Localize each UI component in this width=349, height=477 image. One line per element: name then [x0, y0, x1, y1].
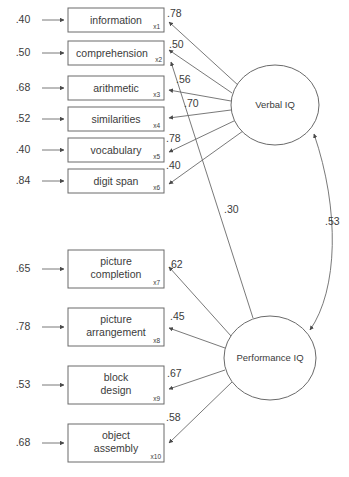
- indicator-label-x8-line1: picture: [100, 313, 132, 325]
- loading-value-x10: .58: [166, 411, 181, 423]
- indicator-boxes: information x1 comprehension x2 arithmet…: [68, 8, 164, 462]
- indicator-sub-x6: x6: [153, 184, 160, 191]
- residual-value-x7: .65: [16, 262, 31, 274]
- residual-value-x2: .50: [16, 46, 31, 58]
- indicator-label-x9-line2: design: [101, 384, 132, 396]
- indicator-label-x10-line1: object: [102, 429, 130, 441]
- loading-path-performance-x7: [169, 267, 231, 336]
- residual-value-x5: .40: [16, 143, 31, 155]
- indicator-sub-x1: x1: [153, 23, 160, 30]
- indicator-sub-x5: x5: [153, 153, 160, 160]
- residual-value-x4: .52: [16, 112, 31, 124]
- indicator-label-x6: digit span: [94, 175, 139, 187]
- factor-correlation-value: .53: [325, 215, 340, 227]
- indicator-label-x10-line2: assembly: [94, 442, 139, 454]
- indicator-label-x5: vocabulary: [91, 144, 143, 156]
- indicator-box-x4[interactable]: similarities x4: [68, 107, 164, 131]
- factor-correlation-curve: [310, 134, 332, 330]
- indicator-sub-x10: x10: [151, 453, 162, 460]
- indicator-label-x7-line2: completion: [91, 268, 142, 280]
- diagram-canvas: .40 .50 .68 .52 .40 .84 .65 .78 .53 .68: [0, 0, 349, 477]
- indicator-box-x5[interactable]: vocabulary x5: [68, 138, 164, 162]
- loading-value-x9: .67: [167, 367, 182, 379]
- loading-value-x6: .40: [166, 159, 181, 171]
- indicator-sub-x2: x2: [155, 56, 162, 63]
- indicator-label-x1: information: [90, 14, 142, 26]
- loading-value-x4: .70: [184, 97, 199, 109]
- indicator-label-x3: arithmetic: [93, 82, 139, 94]
- indicator-box-x10[interactable]: object assembly x10: [68, 424, 164, 462]
- factor-label-verbal-iq: Verbal IQ: [255, 99, 295, 110]
- factor-performance-iq[interactable]: Performance IQ: [224, 316, 316, 400]
- indicator-box-x7[interactable]: picture completion x7: [68, 250, 164, 288]
- indicator-sub-x3: x3: [153, 91, 160, 98]
- sem-path-diagram: .40 .50 .68 .52 .40 .84 .65 .78 .53 .68: [0, 0, 349, 477]
- indicator-box-x2[interactable]: comprehension x2: [68, 41, 164, 65]
- indicator-box-x3[interactable]: arithmetic x3: [68, 76, 164, 100]
- residual-value-x10: .68: [16, 436, 31, 448]
- loading-value-x5: .78: [166, 132, 181, 144]
- indicator-box-x6[interactable]: digit span x6: [68, 169, 164, 193]
- factor-verbal-iq[interactable]: Verbal IQ: [231, 65, 319, 145]
- indicator-label-x7-line1: picture: [100, 255, 132, 267]
- indicator-box-x1[interactable]: information x1: [68, 8, 164, 32]
- residual-values: .40 .50 .68 .52 .40 .84 .65 .78 .53 .68: [16, 13, 31, 448]
- factor-label-performance-iq: Performance IQ: [236, 352, 303, 363]
- indicator-label-x8-line2: arrangement: [86, 326, 146, 338]
- indicator-box-x9[interactable]: block design x9: [68, 366, 164, 404]
- loading-value-x2: .50: [169, 38, 184, 50]
- residual-value-x9: .53: [16, 378, 31, 390]
- loading-path-verbal-x3: [169, 90, 231, 101]
- indicator-label-x4: similarities: [91, 113, 140, 125]
- residual-value-x1: .40: [16, 13, 31, 25]
- loading-path-performance-x8: [169, 328, 225, 348]
- loading-value-x3: .56: [176, 73, 191, 85]
- indicator-sub-x4: x4: [153, 122, 160, 129]
- indicator-label-x9-line1: block: [104, 371, 129, 383]
- loading-value-x8: .45: [170, 310, 185, 322]
- indicator-box-x8[interactable]: picture arrangement x8: [68, 308, 164, 346]
- indicator-sub-x7: x7: [153, 279, 160, 286]
- residual-arrows: [42, 20, 64, 443]
- loading-coefficients: .78 .50 .56 .70 .78 .40 .62 .45 .67 .58: [166, 7, 199, 423]
- indicator-sub-x8: x8: [153, 337, 160, 344]
- residual-value-x6: .84: [16, 174, 31, 186]
- indicator-label-x2: comprehension: [76, 47, 148, 59]
- indicator-sub-x9: x9: [153, 395, 160, 402]
- loading-value-x7: .62: [168, 258, 183, 270]
- cross-loading-value: .30: [224, 203, 239, 215]
- loading-value-x1: .78: [167, 7, 182, 19]
- residual-value-x8: .78: [16, 320, 31, 332]
- loading-path-verbal-x4: [169, 110, 231, 118]
- residual-value-x3: .68: [16, 81, 31, 93]
